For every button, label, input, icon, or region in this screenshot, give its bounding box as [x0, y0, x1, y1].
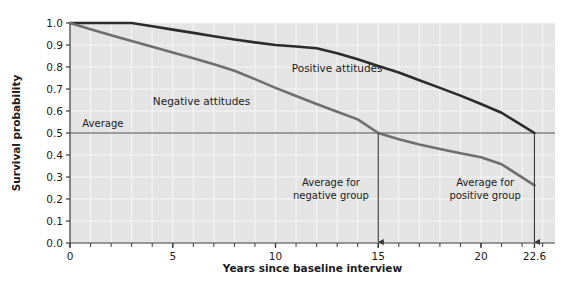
positive-group-arrow-label-line2: positive group [449, 190, 520, 201]
x-tick-label: 15 [372, 250, 385, 262]
y-tick-label: 0.6 [46, 105, 63, 117]
y-tick-label: 0.4 [46, 149, 63, 161]
y-tick-label: 0.3 [46, 171, 63, 183]
y-tick-label: 0.2 [46, 193, 63, 205]
series-label-positive-attitudes: Positive attitudes [292, 62, 383, 74]
series-label-negative-attitudes: Negative attitudes [153, 95, 250, 107]
negative-group-arrow-label-line2: negative group [293, 190, 369, 201]
y-tick-label: 0.5 [46, 127, 63, 139]
x-tick-label: 20 [474, 250, 487, 262]
negative-group-arrow-label-line1: Average for [302, 177, 361, 188]
x-axis-title: Years since baseline interview [222, 262, 403, 274]
x-tick-label: 0 [67, 250, 74, 262]
y-tick-label: 0.8 [46, 61, 63, 73]
average-line-label: Average [82, 118, 123, 129]
y-tick-label: 0.9 [46, 39, 63, 51]
y-tick-label: 1.0 [46, 17, 63, 29]
positive-group-arrow-label-line1: Average for [456, 177, 515, 188]
survival-probability-chart: 0.00.10.20.30.40.50.60.70.80.91.0Surviva… [0, 0, 578, 283]
x-axis [70, 243, 555, 248]
x-tick-label: 22.6 [523, 250, 547, 262]
x-tick-label: 10 [269, 250, 282, 262]
y-tick-label: 0.0 [46, 237, 63, 249]
x-tick-label: 5 [169, 250, 176, 262]
y-axis-title: Survival probability [10, 75, 22, 192]
y-tick-label: 0.1 [46, 215, 63, 227]
y-tick-label: 0.7 [46, 83, 63, 95]
y-axis [66, 23, 70, 243]
chart-canvas: 0.00.10.20.30.40.50.60.70.80.91.0Surviva… [0, 0, 578, 283]
